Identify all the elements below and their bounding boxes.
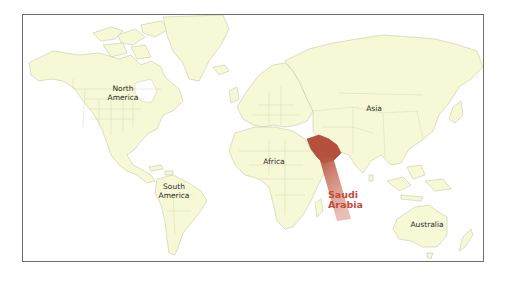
label-saudi-arabia: Saudi Arabia bbox=[328, 190, 363, 210]
british-isles bbox=[229, 87, 239, 103]
caribbean-islands bbox=[149, 165, 173, 175]
map-frame: North America South America Africa Asia … bbox=[22, 14, 484, 262]
label-asia: Asia bbox=[359, 105, 389, 114]
australia bbox=[393, 205, 447, 259]
japan bbox=[449, 101, 463, 123]
label-australia: Australia bbox=[407, 221, 447, 230]
new-zealand bbox=[459, 229, 473, 251]
label-south-america: South America bbox=[151, 183, 197, 200]
label-north-america: North America bbox=[103, 85, 143, 102]
label-africa: Africa bbox=[259, 158, 289, 167]
arctic-islands bbox=[93, 21, 169, 59]
iceland bbox=[213, 65, 229, 75]
southeast-asia-islands bbox=[387, 165, 451, 201]
north-america bbox=[29, 51, 183, 183]
madagascar bbox=[315, 199, 323, 217]
